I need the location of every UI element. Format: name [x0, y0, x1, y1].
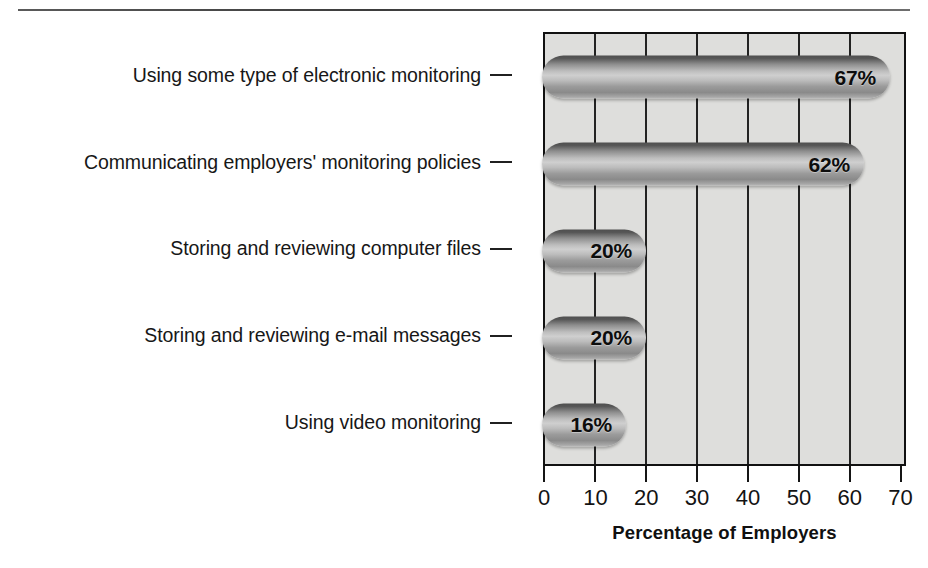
category-label: Storing and reviewing computer files	[170, 237, 481, 260]
leader-dash	[490, 248, 512, 250]
x-tick	[645, 466, 647, 482]
category-label: Using video monitoring	[285, 411, 481, 434]
bar[interactable]: 67%	[542, 56, 890, 99]
plot-inner: 67% 62% 20% 20% 16%	[545, 34, 904, 464]
x-tick	[798, 466, 800, 482]
x-axis: 0 10 20 30 40 50 60 70	[543, 466, 906, 467]
bar-row: 16%	[545, 381, 904, 468]
x-axis-title: Percentage of Employers	[543, 522, 906, 544]
bar-value-label: 16%	[571, 413, 612, 437]
top-divider-rule	[18, 9, 910, 11]
x-tick-label: 20	[624, 485, 668, 511]
x-tick	[849, 466, 851, 482]
bar-value-label: 67%	[835, 65, 876, 89]
bar-row: 20%	[545, 208, 904, 295]
x-tick-label: 50	[777, 485, 821, 511]
x-tick	[543, 466, 545, 482]
x-tick-label: 40	[726, 485, 770, 511]
leader-dash	[490, 422, 512, 424]
x-tick-label: 70	[879, 485, 923, 511]
category-axis-labels: Using some type of electronic monitoring…	[0, 32, 512, 466]
bar-row: 67%	[545, 34, 904, 121]
category-label-row: Using some type of electronic monitoring	[0, 32, 512, 119]
x-tick	[747, 466, 749, 482]
x-tick-label: 10	[573, 485, 617, 511]
bar-chart-figure: Using some type of electronic monitoring…	[0, 0, 928, 568]
bar[interactable]: 16%	[542, 403, 626, 446]
category-label-row: Storing and reviewing computer files	[0, 206, 512, 293]
x-tick	[900, 466, 902, 482]
leader-dash	[490, 74, 512, 76]
x-tick	[594, 466, 596, 482]
x-tick	[696, 466, 698, 482]
leader-dash	[490, 335, 512, 337]
bar-row: 20%	[545, 294, 904, 381]
leader-dash	[490, 161, 512, 163]
x-tick-label: 30	[675, 485, 719, 511]
category-label-row: Using video monitoring	[0, 379, 512, 466]
category-label-row: Storing and reviewing e-mail messages	[0, 292, 512, 379]
x-tick-label: 60	[828, 485, 872, 511]
x-tick-label: 0	[522, 485, 566, 511]
bar-value-label: 62%	[809, 152, 850, 176]
category-label: Storing and reviewing e-mail messages	[144, 324, 481, 347]
bar-value-label: 20%	[591, 239, 632, 263]
category-label: Using some type of electronic monitoring	[133, 64, 481, 87]
bar-value-label: 20%	[591, 326, 632, 350]
bar[interactable]: 20%	[542, 316, 646, 359]
bar-row: 62%	[545, 121, 904, 208]
plot-area: 67% 62% 20% 20% 16%	[543, 32, 906, 466]
bar[interactable]: 62%	[542, 143, 864, 186]
category-label: Communicating employers' monitoring poli…	[84, 151, 481, 174]
bar[interactable]: 20%	[542, 229, 646, 272]
category-label-row: Communicating employers' monitoring poli…	[0, 119, 512, 206]
